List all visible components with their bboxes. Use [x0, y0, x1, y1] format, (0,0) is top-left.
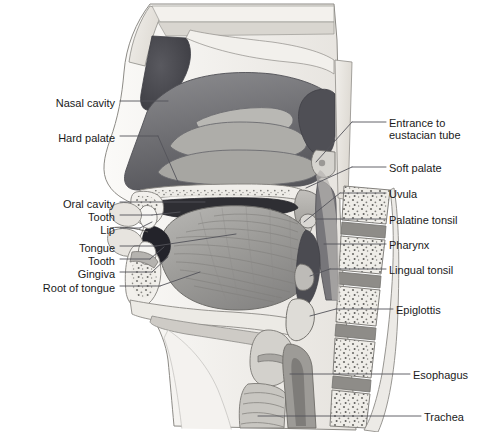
label-nasal-cavity: Nasal cavity [0, 97, 115, 109]
label-trachea: Trachea [424, 411, 464, 423]
label-oral-cavity: Oral cavity [0, 198, 115, 210]
disc-c2-c3 [338, 272, 381, 288]
label-esophagus: Esophagus [413, 369, 468, 381]
label-tooth-upper: Tooth [0, 211, 115, 223]
vertebra-c5 [330, 390, 370, 428]
clivus-bone [335, 60, 352, 200]
disc-c1-c2 [341, 222, 386, 238]
vertebra-c4 [333, 338, 375, 378]
label-entrance-to-eustacian-tube: Entrance to eustacian tube [389, 117, 461, 141]
label-lip: Lip [0, 224, 115, 236]
vertebra-c1 [342, 186, 390, 224]
vertebra-c3 [336, 286, 380, 326]
illustration-body [104, 4, 421, 439]
palatine-tonsil [300, 214, 316, 228]
label-uvula: Uvula [389, 188, 417, 200]
skull-top-band [152, 6, 334, 22]
label-epiglottis: Epiglottis [396, 304, 441, 316]
skull-top-inner [158, 22, 334, 36]
anatomy-figure-page: Nasal cavity Hard palate Oral cavity Too… [0, 0, 487, 439]
label-soft-palate: Soft palate [389, 162, 442, 174]
label-eustacian-line2: eustacian tube [389, 129, 461, 141]
label-palatine-tonsil: Palatine tonsil [389, 214, 458, 226]
label-root-of-tongue: Root of tongue [0, 282, 115, 294]
label-gingiva: Gingiva [0, 268, 115, 280]
eustacian-tube-orifice [319, 160, 325, 166]
label-lingual-tonsil: Lingual tonsil [389, 264, 453, 276]
label-hard-palate: Hard palate [0, 132, 115, 144]
tooth-upper [139, 205, 157, 228]
label-pharynx: Pharynx [389, 239, 429, 251]
label-tongue: Tongue [0, 242, 115, 254]
hard-palate-marrow [152, 189, 290, 197]
label-tooth-lower: Tooth [0, 255, 115, 267]
vertebra-c2 [339, 236, 385, 274]
label-eustacian-line1: Entrance to [389, 117, 461, 129]
